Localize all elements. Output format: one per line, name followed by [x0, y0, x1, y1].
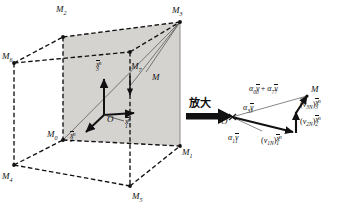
magnified-point-marker [305, 94, 308, 97]
vertex-label-M5: M5 [132, 192, 143, 203]
magnified-origin-label-O: O [221, 117, 228, 126]
magnified-sum-label: α0v0 + α7v7 [249, 85, 277, 95]
vertex-label-M2: M2 [56, 5, 67, 16]
axis-label-x1: x1n [125, 118, 131, 130]
figure-vector-graphics [0, 0, 345, 216]
axis-label-x3: x3n [96, 61, 102, 73]
vertex-label-M3: M3 [172, 6, 183, 17]
vertex-label-M1: M1 [182, 148, 193, 159]
magnified-component-label-v1N: (v1N)x1n [261, 135, 282, 147]
vertex-label-M7: M7 [131, 62, 142, 73]
vertex-label-M4: M4 [2, 172, 13, 183]
magnified-vectors [232, 96, 307, 133]
shaded-plane [63, 22, 180, 146]
magnify-caption: 放大 [189, 94, 211, 110]
figure-canvas: M2 M3 M6 M7 M0 M1 M4 M5 M O x3n x1n x2n … [0, 0, 345, 216]
origin-label-O: O [107, 115, 114, 124]
magnified-component-label-v3N: (v3N)x3n [300, 99, 321, 111]
magnified-vector-label-a3v3: α3v3 [243, 104, 253, 114]
vertex-label-M0: M0 [47, 130, 58, 141]
interior-point-label-M: M [152, 73, 160, 82]
magnified-vector-label-a1v1: α1v1 [228, 134, 238, 144]
vertex-label-M6: M6 [2, 52, 13, 63]
magnified-component-label-v2N: (v2N)x2n [300, 116, 321, 128]
magnified-point-label-M: M [311, 85, 319, 94]
axis-label-x2: x2n [70, 132, 76, 144]
